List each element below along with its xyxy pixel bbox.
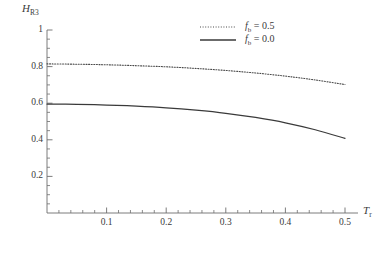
series-line-1 <box>47 104 345 138</box>
chart-canvas <box>0 0 384 261</box>
x-tick-label: 0.1 <box>92 217 122 227</box>
y-tick-label: 0.4 <box>0 134 43 144</box>
y-tick-label: 1 <box>0 24 43 34</box>
x-tick-label: 0.3 <box>211 217 241 227</box>
x-tick-label: 0.4 <box>270 217 300 227</box>
y-tick-label: 0.8 <box>0 61 43 71</box>
legend-label-1: fb = 0.0 <box>245 33 274 47</box>
legend-label-0: fb = 0.5 <box>245 20 274 34</box>
y-axis-title: HR3 <box>22 2 39 17</box>
x-axis-title: Tr <box>363 204 372 219</box>
x-tick-label: 0.5 <box>330 217 360 227</box>
y-tick-label: 0.6 <box>0 97 43 107</box>
y-tick-label: 0.2 <box>0 170 43 180</box>
x-tick-label: 0.2 <box>151 217 181 227</box>
chart-figure: 0.20.40.60.810.10.20.30.40.5HR3Trfb = 0.… <box>0 0 384 261</box>
series-line-0 <box>47 64 345 85</box>
